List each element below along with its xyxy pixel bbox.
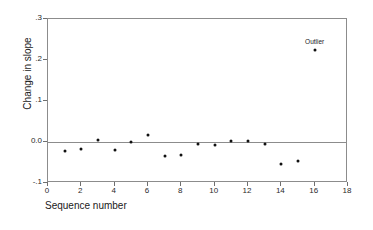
x-tick-label: 8 xyxy=(170,187,190,195)
data-point xyxy=(97,139,100,142)
y-tick-label: .1 xyxy=(35,96,42,104)
x-tick-label: 0 xyxy=(37,187,57,195)
x-tick-label: 16 xyxy=(304,187,324,195)
x-axis-title: Sequence number xyxy=(45,200,127,211)
data-point xyxy=(263,143,266,146)
y-tick-label: 0.0 xyxy=(31,137,42,145)
y-axis-title: Change in slope xyxy=(22,0,33,149)
data-point xyxy=(130,141,133,144)
x-tick-label: 12 xyxy=(237,187,257,195)
x-tick-label: 2 xyxy=(70,187,90,195)
x-tick-label: 14 xyxy=(270,187,290,195)
scatter-plot-figure: Change in slope Sequence number .3.2.10.… xyxy=(0,0,373,230)
data-point xyxy=(147,134,150,137)
data-point xyxy=(313,48,316,51)
data-point xyxy=(230,140,233,143)
data-point xyxy=(247,140,250,143)
y-tick-label: .2 xyxy=(35,55,42,63)
data-point xyxy=(80,147,83,150)
y-tick-label: .3 xyxy=(35,14,42,22)
x-tick-label: 18 xyxy=(337,187,357,195)
data-point xyxy=(213,143,216,146)
data-point xyxy=(297,160,300,163)
x-tick-label: 10 xyxy=(204,187,224,195)
outlier-annotation: Outlier xyxy=(305,38,324,45)
data-point xyxy=(63,150,66,153)
data-point xyxy=(163,154,166,157)
x-tick-label: 6 xyxy=(137,187,157,195)
data-point xyxy=(280,162,283,165)
data-point xyxy=(113,148,116,151)
x-tick-label: 4 xyxy=(104,187,124,195)
y-tick-label: -.1 xyxy=(33,178,42,186)
data-point xyxy=(197,143,200,146)
plot-area: Outlier xyxy=(47,18,347,182)
data-point xyxy=(180,154,183,157)
